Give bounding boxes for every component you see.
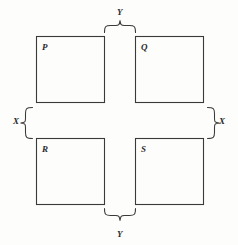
brace-left bbox=[21, 108, 33, 139]
brace-label-y-top: Y bbox=[117, 8, 123, 17]
diagram-canvas: P Q R S Y Y X X bbox=[0, 0, 238, 245]
brace-label-x-left: X bbox=[13, 117, 19, 126]
brace-label-x-right: X bbox=[219, 117, 225, 126]
square-label-q: Q bbox=[141, 43, 148, 52]
square-label-p: P bbox=[42, 43, 48, 52]
square-label-r: R bbox=[42, 145, 48, 154]
square-label-s: S bbox=[141, 145, 146, 154]
brace-bottom bbox=[105, 209, 136, 221]
brace-label-y-bottom: Y bbox=[117, 230, 123, 239]
brace-top bbox=[105, 21, 136, 33]
brace-right bbox=[208, 108, 220, 139]
diagram-vector-layer bbox=[0, 0, 238, 245]
